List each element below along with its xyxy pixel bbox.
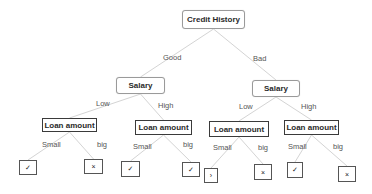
node-credit-history: Credit History xyxy=(182,10,245,29)
leaf-outcome-yes: ✓ xyxy=(287,162,303,178)
edge-label-low: Low xyxy=(239,103,253,111)
check-icon: ✓ xyxy=(128,165,134,173)
node-label: Loan amount xyxy=(138,123,188,132)
cross-icon: × xyxy=(261,169,265,176)
node-label: Loan amount xyxy=(286,123,336,132)
edge-label-big: big xyxy=(333,143,343,151)
cross-icon: × xyxy=(91,163,95,170)
edge-label-big: big xyxy=(183,141,193,149)
node-salary-good: Salary xyxy=(116,77,165,94)
edge-label-low: Low xyxy=(96,100,110,108)
arrow-icon: › xyxy=(210,172,212,179)
node-loan-amount-good-low: Loan amount xyxy=(42,118,97,132)
leaf-outcome-no: × xyxy=(254,164,272,180)
node-loan-amount-bad-low: Loan amount xyxy=(209,121,269,137)
node-label: Salary xyxy=(264,84,288,93)
leaf-outcome-no: × xyxy=(84,159,103,174)
node-loan-amount-bad-high: Loan amount xyxy=(284,120,339,135)
leaf-outcome-yes: ✓ xyxy=(121,161,140,177)
node-label: Loan amount xyxy=(214,125,264,134)
leaf-outcome-yes: › xyxy=(204,168,218,183)
edge-label-small: Small xyxy=(288,143,307,151)
check-icon: ✓ xyxy=(292,166,298,174)
node-label: Loan amount xyxy=(44,121,94,130)
edge-label-good: Good xyxy=(163,54,181,62)
edge-label-big: big xyxy=(258,144,268,152)
edge-label-high: High xyxy=(301,103,316,111)
edge-label-small: Small xyxy=(213,144,232,152)
edge-label-small: Small xyxy=(42,141,61,149)
check-icon: ✓ xyxy=(25,164,31,172)
leaf-outcome-yes: ✓ xyxy=(182,162,200,177)
node-loan-amount-good-high: Loan amount xyxy=(135,120,192,135)
leaf-outcome-no: × xyxy=(338,166,356,182)
cross-icon: × xyxy=(345,171,349,178)
node-label: Credit History xyxy=(187,15,240,24)
edge-label-bad: Bad xyxy=(253,55,266,63)
decision-tree-diagram: Credit History Salary Salary Good Bad Lo… xyxy=(0,0,372,194)
edge-label-small: Small xyxy=(133,143,152,151)
edge-label-high: High xyxy=(158,102,173,110)
node-salary-bad: Salary xyxy=(252,80,300,97)
node-label: Salary xyxy=(128,81,152,90)
check-icon: ✓ xyxy=(188,166,194,174)
leaf-outcome-yes: ✓ xyxy=(19,160,37,175)
edge-label-big: big xyxy=(97,141,107,149)
